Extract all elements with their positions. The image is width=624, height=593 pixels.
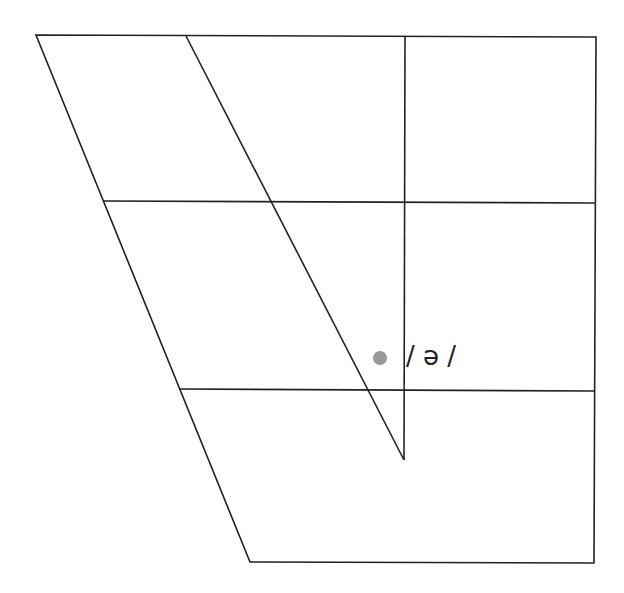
vowel-point-dot bbox=[373, 351, 387, 365]
vowel-points bbox=[373, 351, 387, 365]
inner-line bbox=[186, 36, 404, 460]
horizontal-line bbox=[104, 201, 596, 203]
inner-lines bbox=[186, 36, 405, 460]
horizontal-gridlines bbox=[104, 201, 596, 391]
inner-line bbox=[404, 37, 405, 460]
vowel-trapezoid-outline bbox=[36, 35, 596, 563]
horizontal-line bbox=[179, 389, 594, 391]
vowel-point-label: / ə / bbox=[406, 341, 456, 371]
vowel-chart bbox=[0, 0, 624, 593]
